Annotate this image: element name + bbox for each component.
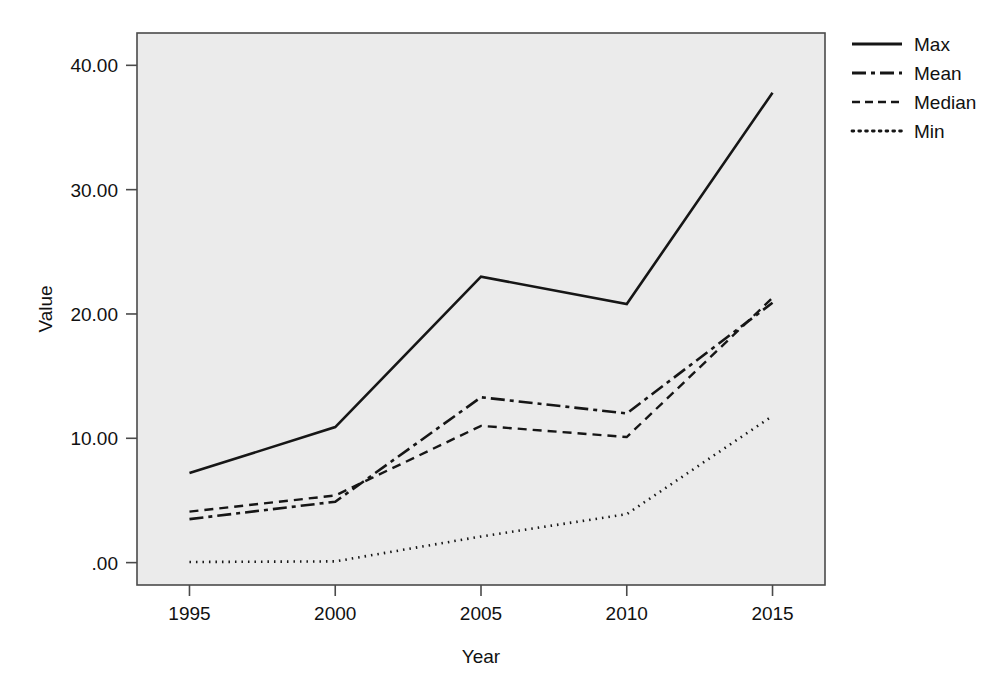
y-axis-title: Value [35,285,56,332]
line-chart-svg: .0010.0020.0030.0040.00 1995200020052010… [0,0,992,679]
legend-label-mean: Mean [914,63,962,84]
x-tick-label: 2015 [751,603,793,624]
chart-figure: .0010.0020.0030.0040.00 1995200020052010… [0,0,992,679]
x-axis-title: Year [462,646,501,667]
legend-label-min: Min [914,121,945,142]
x-tick-label: 1995 [168,603,210,624]
y-tick-label: .00 [92,553,118,574]
y-tick-label: 20.00 [70,304,118,325]
y-tick-label: 40.00 [70,55,118,76]
y-tick-label: 30.00 [70,180,118,201]
legend-label-median: Median [914,92,976,113]
x-tick-label: 2010 [606,603,648,624]
legend-label-max: Max [914,34,950,55]
y-tick-label: 10.00 [70,428,118,449]
x-tick-label: 2000 [314,603,356,624]
plot-background [137,33,825,585]
x-tick-label: 2005 [460,603,502,624]
